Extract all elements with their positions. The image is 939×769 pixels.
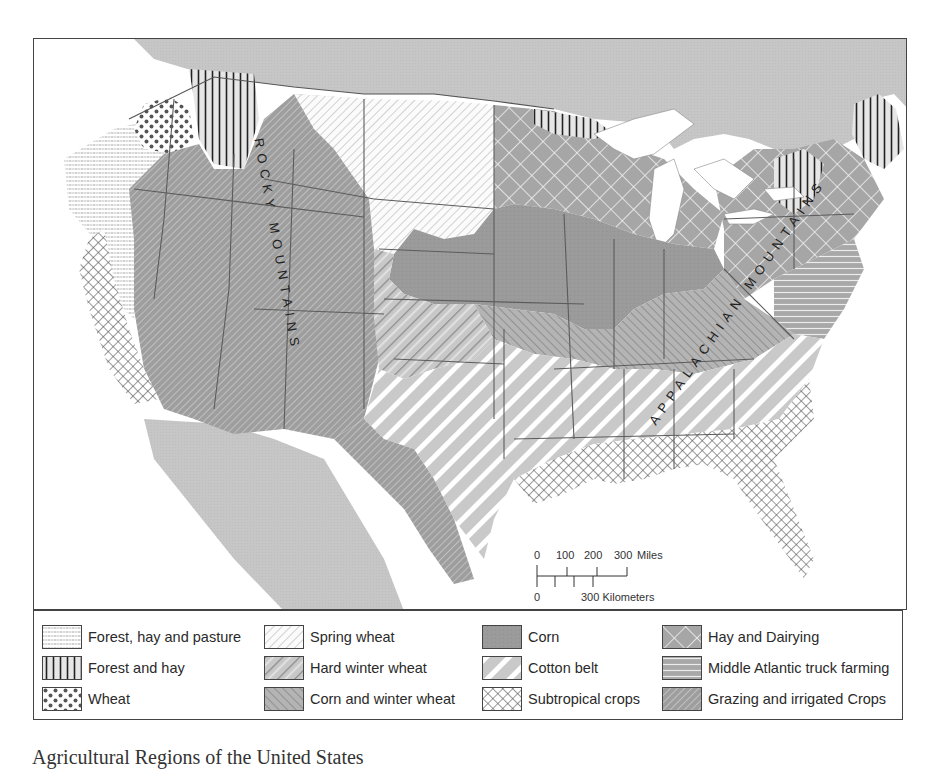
horizontal-lines-swatch-icon [42, 625, 82, 649]
legend-item-wheat: Wheat [42, 683, 241, 714]
legend-item-hay-dairying: Hay and Dairying [662, 621, 889, 652]
map-legend: Forest, hay and pasture Forest and hay W… [33, 610, 903, 720]
gray-diagonal-swatch-icon [264, 656, 304, 680]
map-frame: ROCKY MOUNTAINS APPALACHIAN MOUNTAINS 0 … [33, 38, 907, 610]
us-agricultural-map [34, 39, 907, 610]
solid-gray-swatch-icon [482, 625, 522, 649]
diamond-grid-swatch-icon [662, 625, 702, 649]
legend-item-middle-atlantic: Middle Atlantic truck farming [662, 652, 889, 683]
legend-item-corn: Corn [482, 621, 640, 652]
legend-column-4: Hay and Dairying Middle Atlantic truck f… [662, 621, 889, 714]
legend-column-3: Corn Cotton belt Subtropical crops [482, 621, 640, 714]
scale-bar: 0 100 200 300 Miles 0 300 Kilometers [534, 549, 734, 609]
dense-diagonal-swatch-icon [662, 687, 702, 711]
legend-item-forest-hay: Forest and hay [42, 652, 241, 683]
legend-item-hard-winter-wheat: Hard winter wheat [264, 652, 455, 683]
reverse-diagonal-swatch-icon [264, 687, 304, 711]
legend-column-1: Forest, hay and pasture Forest and hay W… [42, 621, 241, 714]
scale-bar-graphic [535, 563, 635, 593]
white-band-diagonal-swatch-icon [482, 656, 522, 680]
legend-item-grazing: Grazing and irrigated Crops [662, 683, 889, 714]
legend-item-cotton-belt: Cotton belt [482, 652, 640, 683]
crosshatch-swatch-icon [482, 687, 522, 711]
legend-item-corn-winter-wheat: Corn and winter wheat [264, 683, 455, 714]
dots-swatch-icon [42, 687, 82, 711]
vertical-lines-swatch-icon [42, 656, 82, 680]
region-wheat [134, 97, 194, 154]
legend-column-2: Spring wheat Hard winter wheat Corn and … [264, 621, 455, 714]
legend-item-subtropical: Subtropical crops [482, 683, 640, 714]
map-caption: Agricultural Regions of the United State… [32, 746, 364, 769]
horizontal-band-swatch-icon [662, 656, 702, 680]
legend-item-spring-wheat: Spring wheat [264, 621, 455, 652]
fine-diagonal-swatch-icon [264, 625, 304, 649]
legend-item-forest-hay-pasture: Forest, hay and pasture [42, 621, 241, 652]
